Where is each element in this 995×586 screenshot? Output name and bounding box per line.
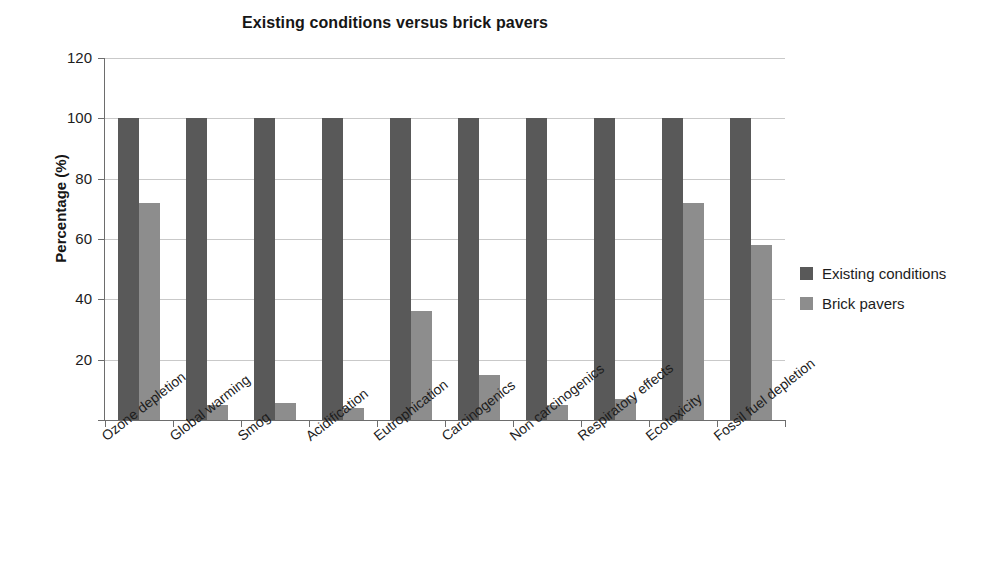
y-tick-label-60: 60 <box>32 231 92 246</box>
y-tick-label-120: 120 <box>32 50 92 65</box>
bar <box>186 118 207 420</box>
chart-legend: Existing conditions Brick pavers <box>800 264 990 324</box>
y-tick-mark-100 <box>98 118 105 119</box>
y-tick-label-80: 80 <box>32 171 92 186</box>
legend-swatch-brick-pavers <box>800 297 813 310</box>
legend-swatch-existing-conditions <box>800 267 813 280</box>
y-tick-mark-60 <box>98 239 105 240</box>
bar <box>390 118 411 420</box>
bar <box>526 118 547 420</box>
bar-chart: Existing conditions versus brick pavers … <box>0 0 995 586</box>
bar <box>683 203 704 420</box>
bar <box>254 118 275 420</box>
y-tick-mark-0 <box>98 420 105 421</box>
y-tick-label-100: 100 <box>32 110 92 125</box>
legend-item-existing-conditions: Existing conditions <box>800 264 990 283</box>
legend-label-brick-pavers: Brick pavers <box>822 295 905 312</box>
bar <box>730 118 751 420</box>
y-tick-mark-40 <box>98 299 105 300</box>
y-tick-label-20: 20 <box>32 352 92 367</box>
y-tick-mark-120 <box>98 58 105 59</box>
gridline-120 <box>105 58 785 59</box>
y-tick-mark-80 <box>98 179 105 180</box>
chart-title: Existing conditions versus brick pavers <box>0 14 790 32</box>
plot-area <box>105 58 785 420</box>
bar <box>118 118 139 420</box>
bar <box>458 118 479 420</box>
y-tick-label-40: 40 <box>32 291 92 306</box>
y-tick-mark-20 <box>98 360 105 361</box>
bar <box>322 118 343 420</box>
gridline-80 <box>105 179 785 180</box>
bar <box>275 403 296 420</box>
legend-label-existing-conditions: Existing conditions <box>822 265 946 282</box>
x-tick-mark <box>785 420 786 427</box>
y-axis-tick-labels: 20406080100120 <box>30 0 92 586</box>
gridline-100 <box>105 118 785 119</box>
legend-item-brick-pavers: Brick pavers <box>800 294 990 313</box>
